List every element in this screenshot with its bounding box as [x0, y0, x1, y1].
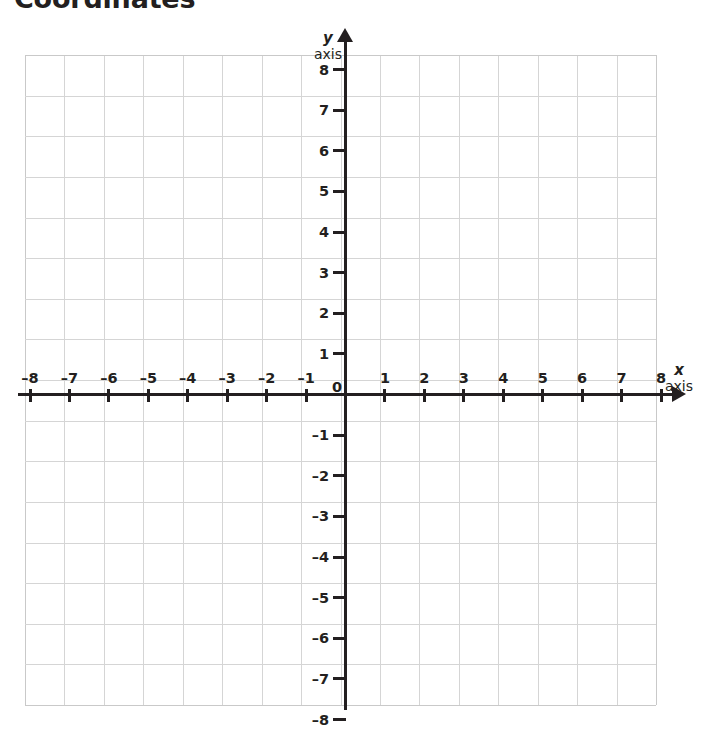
y-axis-word: axis [306, 47, 350, 63]
x-axis-tick-label: –6 [100, 370, 117, 386]
y-axis-tick [333, 231, 346, 234]
y-axis-tick-label: 7 [319, 102, 329, 118]
y-axis-tick [333, 149, 346, 152]
gridline-horizontal [25, 664, 656, 665]
y-axis-tick-label: –2 [312, 468, 329, 484]
x-axis-tick [186, 389, 189, 402]
gridline-horizontal [25, 299, 656, 300]
x-axis-tick-label: –1 [297, 370, 314, 386]
gridline-horizontal [25, 705, 656, 706]
y-axis-tick [333, 474, 346, 477]
x-axis-tick-label: –2 [258, 370, 275, 386]
y-axis-tick [333, 637, 346, 640]
y-axis-tick-label: –4 [312, 549, 329, 565]
x-axis-tick-label: –8 [21, 370, 38, 386]
gridline-horizontal [25, 136, 656, 137]
x-axis-tick [107, 389, 110, 402]
y-axis-tick-label: 4 [319, 224, 329, 240]
x-axis-tick [620, 389, 623, 402]
x-axis-tick-label: 8 [656, 370, 666, 386]
y-axis-tick-label: 8 [319, 62, 329, 78]
x-axis-tick-label: 5 [538, 370, 548, 386]
gridline-horizontal [25, 177, 656, 178]
x-axis-line [18, 393, 676, 396]
y-axis-tick [333, 434, 346, 437]
gridline-horizontal [25, 502, 656, 503]
x-axis-tick [462, 389, 465, 402]
x-axis-tick-label: 7 [617, 370, 627, 386]
y-axis-tick [333, 556, 346, 559]
gridline-horizontal [25, 218, 656, 219]
y-axis-tick-label: 1 [319, 346, 329, 362]
y-axis-tick-label: 3 [319, 265, 329, 281]
x-axis-tick-label: 1 [380, 370, 390, 386]
x-axis-tick-label: 4 [498, 370, 508, 386]
x-axis-tick [541, 389, 544, 402]
x-axis-tick-label: 3 [459, 370, 469, 386]
x-axis-tick-label: –3 [219, 370, 236, 386]
x-axis-tick-label: –7 [61, 370, 78, 386]
x-axis-tick [502, 389, 505, 402]
y-axis-tick [333, 190, 346, 193]
x-axis-tick [383, 389, 386, 402]
gridline-horizontal [25, 339, 656, 340]
x-axis-tick [305, 389, 308, 402]
gridline-horizontal [25, 96, 656, 97]
y-axis-tick [333, 515, 346, 518]
y-axis-tick [333, 677, 346, 680]
y-axis-tick-label: 2 [319, 305, 329, 321]
y-axis-tick-label: –8 [312, 712, 329, 728]
x-axis-tick-label: –4 [179, 370, 196, 386]
gridline-horizontal [25, 543, 656, 544]
y-axis-tick [333, 718, 346, 721]
y-axis-tick-label: –7 [312, 671, 329, 687]
y-axis-tick-label: –5 [312, 590, 329, 606]
x-axis-tick-label: 2 [419, 370, 429, 386]
x-axis-tick [226, 389, 229, 402]
y-axis-tick [333, 271, 346, 274]
y-axis-tick-label: 6 [319, 143, 329, 159]
gridline-horizontal [25, 461, 656, 462]
y-axis-label: y axis [306, 30, 350, 62]
gridline-horizontal [25, 624, 656, 625]
x-axis-tick [29, 389, 32, 402]
y-axis-tick [333, 352, 346, 355]
y-axis-tick [333, 109, 346, 112]
y-axis-tick-label: –1 [312, 427, 329, 443]
x-axis-tick-label: 6 [577, 370, 587, 386]
y-axis-tick-label: 5 [319, 183, 329, 199]
y-axis-tick-label: –3 [312, 508, 329, 524]
x-axis-tick [147, 389, 150, 402]
y-axis-letter: y [306, 30, 350, 47]
y-axis-tick [333, 312, 346, 315]
y-axis-tick [333, 596, 346, 599]
x-axis-tick [581, 389, 584, 402]
x-axis-tick [265, 389, 268, 402]
y-axis-tick [333, 68, 346, 71]
gridline-horizontal [25, 583, 656, 584]
y-axis-line [344, 40, 347, 710]
gridline-horizontal [25, 421, 656, 422]
origin-label: 0 [332, 379, 342, 395]
x-axis-tick [68, 389, 71, 402]
gridline-horizontal [25, 258, 656, 259]
x-axis-tick-label: –5 [140, 370, 157, 386]
coordinate-plane: 0 y axis x axis –8–7–6–5–4–3–2–112345678… [0, 0, 702, 729]
y-axis-tick-label: –6 [312, 630, 329, 646]
x-axis-tick [423, 389, 426, 402]
x-axis-tick [660, 389, 663, 402]
